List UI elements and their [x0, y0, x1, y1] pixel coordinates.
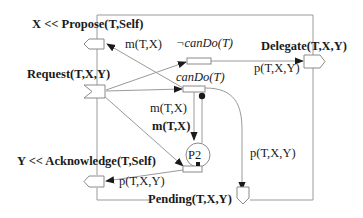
edge-label-p-txy-pending: p(T,X,Y): [250, 146, 296, 160]
delegate-label: Delegate(T,X,Y): [261, 39, 347, 53]
edge-label-m-tx-propose: m(T,X): [125, 37, 162, 51]
edge-label-m-tx-cando: m(T,X): [150, 101, 187, 115]
join-marker-icon: [196, 162, 200, 166]
test-arc-dot-icon: [199, 93, 205, 99]
request-label: Request(T,X,Y): [27, 67, 110, 81]
can-do-node[interactable]: [183, 86, 205, 92]
not-can-do-label: ¬canDo(T): [176, 36, 233, 50]
edge-label-p-txy-ack: p(T,X,Y): [119, 174, 165, 188]
not-can-do-node[interactable]: [187, 58, 211, 64]
edge-label-p-txy-delegate: p(T,X,Y): [254, 61, 300, 75]
propose-node[interactable]: [84, 39, 104, 49]
request-node[interactable]: [84, 85, 105, 98]
edge-cando-to-pending: [205, 88, 242, 190]
edge-request-to-cando: [106, 89, 182, 91]
p2-label: P2: [188, 148, 201, 162]
pending-node[interactable]: [237, 187, 249, 204]
pending-label: Pending(T,X,Y): [148, 192, 232, 206]
edge-label-m-tx-bold: m(T,X): [152, 119, 190, 133]
can-do-label: canDo(T): [176, 70, 225, 84]
delegate-node[interactable]: [304, 55, 325, 68]
join-node[interactable]: [183, 166, 202, 172]
acknowledge-node[interactable]: [84, 176, 104, 187]
propose-label: X << Propose(T,Self): [32, 17, 143, 31]
acknowledge-label: Y << Acknowledge(T,Self): [17, 154, 156, 168]
diagram-canvas: X << Propose(T,Self) Request(T,X,Y) ¬can…: [0, 0, 363, 218]
